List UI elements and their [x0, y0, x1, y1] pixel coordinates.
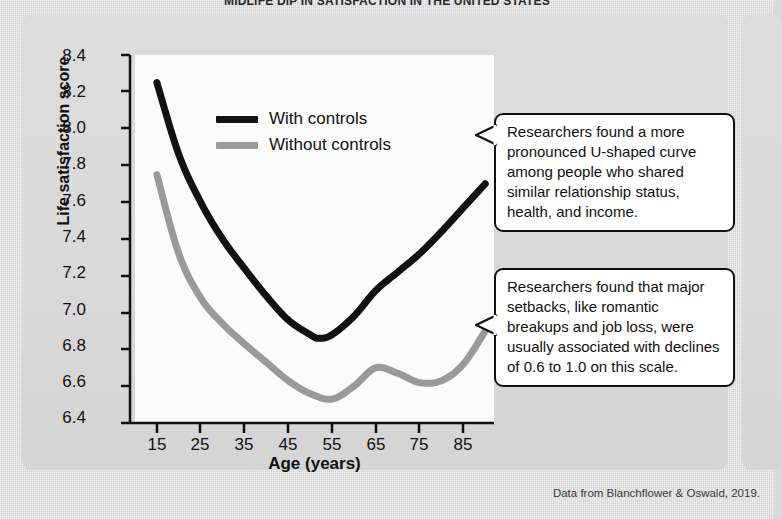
x-tick-label: 85: [443, 435, 483, 455]
figure-title: MIDLIFE DIP IN SATISFACTION IN THE UNITE…: [0, 0, 774, 6]
callout-pointer-icon: [474, 312, 498, 338]
x-tick-label: 15: [137, 435, 177, 455]
callout-text: Researchers found a more pronounced U-sh…: [507, 123, 696, 220]
x-tick-label: 25: [180, 435, 220, 455]
adjacent-panel-edge: [742, 14, 782, 470]
legend-label: With controls: [269, 109, 367, 129]
x-tick-label: 65: [356, 435, 396, 455]
x-axis-title: Age (years): [135, 454, 494, 474]
legend-item-without-controls: Without controls: [216, 132, 391, 158]
x-tick-label: 45: [268, 435, 308, 455]
legend-label: Without controls: [269, 135, 391, 155]
x-tick-label: 55: [312, 435, 352, 455]
x-tick-label: 35: [224, 435, 264, 455]
source-note: Data from Blanchflower & Oswald, 2019.: [553, 487, 760, 499]
legend-swatch: [216, 142, 258, 149]
callout-controls: Researchers found a more pronounced U-sh…: [494, 113, 735, 232]
x-tick-label: 75: [399, 435, 439, 455]
callout-setbacks: Researchers found that major setbacks, l…: [494, 268, 735, 387]
callout-text: Researchers found that major setbacks, l…: [507, 278, 720, 375]
legend-swatch: [216, 116, 258, 123]
callout-pointer-icon: [474, 122, 498, 148]
figure-panel: Life satisfaction score 8.4 8.2 8.0 7.8 …: [22, 14, 728, 470]
axis-lines: [22, 14, 728, 470]
chart-legend: With controls Without controls: [216, 106, 391, 158]
legend-item-with-controls: With controls: [216, 106, 391, 132]
